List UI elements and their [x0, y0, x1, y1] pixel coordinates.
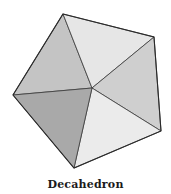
- decahedron-diagram: [0, 0, 171, 194]
- figure-caption: Decahedron: [0, 178, 171, 191]
